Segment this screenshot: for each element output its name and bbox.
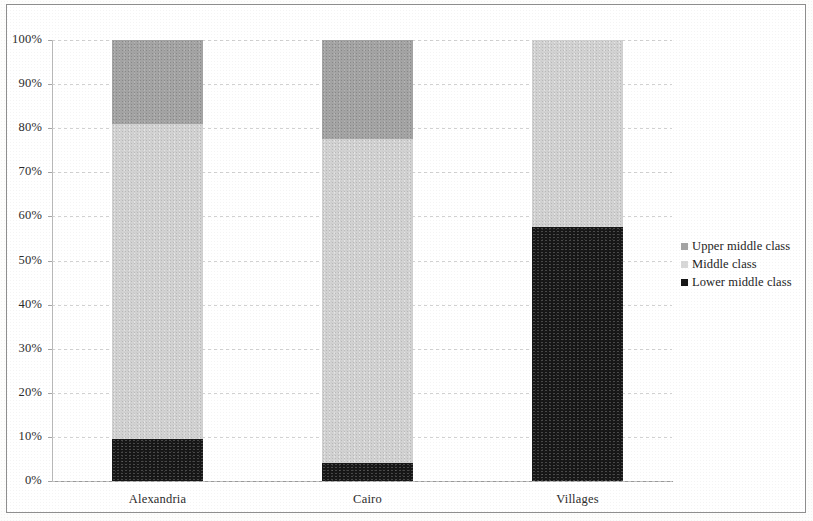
- stacked-bar[interactable]: [322, 40, 413, 481]
- y-axis-label: 100%: [0, 32, 42, 47]
- legend-label: Lower middle class: [692, 275, 792, 290]
- y-axis-label: 30%: [0, 341, 42, 356]
- y-axis-label: 20%: [0, 385, 42, 400]
- y-axis-label: 60%: [0, 208, 42, 223]
- lower-middle-class-swatch-icon: [681, 279, 688, 286]
- gridline-0%: [52, 481, 672, 482]
- bar-segment-upper-middle-class-cairo[interactable]: [322, 40, 413, 139]
- middle-class-swatch-icon: [681, 261, 688, 268]
- y-tick-mark: [48, 40, 52, 41]
- y-axis-label: 70%: [0, 164, 42, 179]
- stacked-bar[interactable]: [532, 40, 623, 481]
- y-tick-mark: [48, 172, 52, 173]
- y-tick-mark: [48, 261, 52, 262]
- legend-label: Upper middle class: [692, 239, 790, 254]
- bar-segment-lower-middle-class-alexandria[interactable]: [112, 439, 203, 481]
- y-tick-mark: [48, 481, 52, 482]
- x-axis-label-cairo: Cairo: [298, 492, 438, 507]
- y-axis-label: 0%: [0, 473, 42, 488]
- y-axis-label: 10%: [0, 429, 42, 444]
- stacked-bar[interactable]: [112, 40, 203, 481]
- legend-item-middle-class[interactable]: Middle class: [681, 255, 805, 273]
- y-axis-label: 50%: [0, 253, 42, 268]
- bar-segment-middle-class-cairo[interactable]: [322, 139, 413, 463]
- bar-group-cairo: [322, 40, 413, 481]
- y-tick-mark: [48, 84, 52, 85]
- y-tick-mark: [48, 437, 52, 438]
- y-tick-mark: [48, 393, 52, 394]
- chart-legend: Upper middle classMiddle classLower midd…: [681, 237, 805, 291]
- x-axis-label-villages: Villages: [508, 492, 648, 507]
- legend-item-upper-middle-class[interactable]: Upper middle class: [681, 237, 805, 255]
- y-axis-label: 90%: [0, 76, 42, 91]
- bar-segment-lower-middle-class-villages[interactable]: [532, 227, 623, 481]
- y-tick-mark: [48, 216, 52, 217]
- legend-item-lower-middle-class[interactable]: Lower middle class: [681, 273, 805, 291]
- upper-middle-class-swatch-icon: [681, 243, 688, 250]
- bar-segment-middle-class-alexandria[interactable]: [112, 124, 203, 439]
- y-axis-label: 80%: [0, 120, 42, 135]
- bar-segment-lower-middle-class-cairo[interactable]: [322, 463, 413, 481]
- bar-group-alexandria: [112, 40, 203, 481]
- y-tick-mark: [48, 349, 52, 350]
- bar-segment-upper-middle-class-alexandria[interactable]: [112, 40, 203, 124]
- y-tick-mark: [48, 305, 52, 306]
- legend-label: Middle class: [692, 257, 757, 272]
- bar-group-villages: [532, 40, 623, 481]
- y-axis-label: 40%: [0, 297, 42, 312]
- x-axis-label-alexandria: Alexandria: [88, 492, 228, 507]
- y-tick-mark: [48, 128, 52, 129]
- chart-page: 0%10%20%30%40%50%60%70%80%90%100% Alexan…: [0, 0, 813, 521]
- plot-area: [52, 40, 672, 481]
- bar-segment-middle-class-villages[interactable]: [532, 40, 623, 227]
